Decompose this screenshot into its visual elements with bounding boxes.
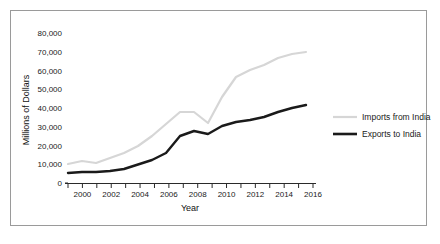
y-axis-tick-label: 30,000	[38, 123, 63, 132]
x-axis-tick-label: 2000	[74, 190, 92, 199]
chart-figure: 010,00020,00030,00040,00050,00060,00070,…	[0, 0, 440, 244]
y-axis-tick-label: 0	[58, 179, 63, 188]
y-axis-tick-label: 80,000	[38, 29, 63, 38]
y-axis-tick-label: 40,000	[38, 104, 63, 113]
series-line-exports	[68, 105, 306, 173]
x-axis-tick-label: 2006	[160, 190, 178, 199]
y-axis-tick-labels: 010,00020,00030,00040,00050,00060,00070,…	[38, 29, 63, 188]
x-axis-tick-label: 2016	[304, 190, 322, 199]
y-axis-tick-label: 50,000	[38, 85, 63, 94]
legend-label: Imports from India	[362, 112, 431, 122]
x-axis-title: Year	[181, 203, 199, 213]
x-axis-tick-label: 2012	[246, 190, 264, 199]
series-line-imports	[68, 52, 306, 164]
x-axis-tick-labels: 200020022004200620082010201220142016	[74, 190, 323, 199]
y-axis-tick-label: 20,000	[38, 142, 63, 151]
x-axis-tick-label: 2004	[131, 190, 149, 199]
y-axis-tick-label: 10,000	[38, 160, 63, 169]
legend-label: Exports to India	[362, 129, 421, 139]
x-axis-tick-label: 2002	[102, 190, 120, 199]
x-axis-tick-label: 2014	[275, 190, 293, 199]
y-axis-title: Millions of Dollars	[21, 74, 31, 145]
chart-plot: 010,00020,00030,00040,00050,00060,00070,…	[0, 0, 440, 244]
chart-legend: Imports from IndiaExports to India	[333, 112, 431, 139]
chart-series-lines	[68, 52, 306, 173]
y-axis-tick-label: 60,000	[38, 67, 63, 76]
x-axis-tick-label: 2010	[218, 190, 236, 199]
x-axis-tick-label: 2008	[189, 190, 207, 199]
y-axis-tick-label: 70,000	[38, 48, 63, 57]
